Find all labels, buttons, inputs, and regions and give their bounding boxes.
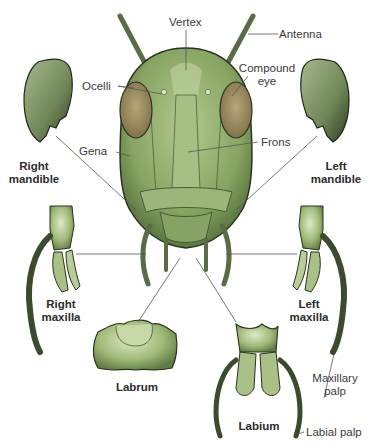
label-gena: Gena — [79, 145, 107, 158]
head-capsule — [120, 48, 252, 248]
label-left-mandible-line2: mandible — [306, 173, 366, 186]
left-maxilla — [293, 206, 344, 352]
label-labium: Labium — [234, 420, 284, 433]
right-mandible — [24, 59, 72, 142]
label-left-maxilla: Left maxilla — [284, 298, 334, 324]
labrum — [94, 320, 177, 370]
label-left-maxilla-line2: maxilla — [284, 311, 334, 324]
label-left-mandible-line1: Left — [306, 160, 366, 173]
label-ocelli: Ocelli — [82, 80, 111, 93]
label-compound-eye: Compound eye — [237, 62, 297, 88]
label-frons: Frons — [261, 136, 290, 149]
left-mandible — [301, 59, 349, 142]
label-maxillary-palp: Maxillary palp — [305, 372, 365, 398]
label-compound-eye-line2: eye — [237, 75, 297, 88]
label-maxillary-palp-line2: palp — [305, 385, 365, 398]
label-right-maxilla-line2: maxilla — [36, 311, 86, 324]
label-antenna: Antenna — [279, 28, 322, 41]
right-compound-eye — [120, 82, 152, 138]
label-right-mandible-line1: Right — [4, 160, 64, 173]
label-right-maxilla: Right maxilla — [36, 298, 86, 324]
label-compound-eye-line1: Compound — [237, 62, 297, 75]
label-vertex: Vertex — [169, 16, 202, 29]
label-right-mandible-line2: mandible — [4, 173, 64, 186]
label-right-maxilla-line1: Right — [36, 298, 86, 311]
label-maxillary-palp-line1: Maxillary — [305, 372, 365, 385]
label-right-mandible: Right mandible — [4, 160, 64, 186]
right-maxilla — [29, 206, 80, 352]
label-labrum: Labrum — [112, 381, 162, 394]
diagram-canvas: Vertex Antenna Ocelli Compound eye Gena … — [0, 0, 373, 448]
label-labial-palp: Labial palp — [306, 426, 362, 439]
label-left-maxilla-line1: Left — [284, 298, 334, 311]
label-left-mandible: Left mandible — [306, 160, 366, 186]
